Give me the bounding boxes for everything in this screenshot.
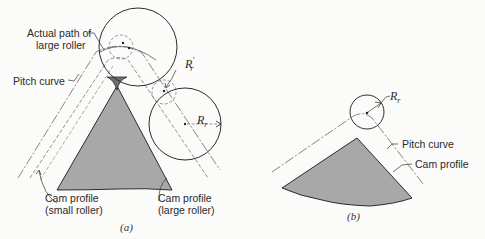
caption-b: (b) bbox=[347, 210, 360, 222]
cam-body-a bbox=[57, 86, 172, 190]
label-pitch-curve-b: Pitch curve bbox=[402, 138, 454, 150]
roller-b-center bbox=[366, 112, 369, 115]
label-cam-profile-small-line2: (small roller) bbox=[45, 204, 103, 216]
large-roller-right-center bbox=[184, 123, 186, 125]
caption-a: (a) bbox=[120, 221, 133, 233]
label-cam-profile-large-line2: (large roller) bbox=[158, 204, 215, 216]
symbol-small-roller-radius: R′r bbox=[185, 55, 193, 73]
roller-b-radius-line bbox=[368, 103, 381, 112]
label-actual-path-line1: Actual path of bbox=[27, 27, 91, 39]
label-actual-path-line2: large roller bbox=[36, 39, 86, 51]
symbol-large-roller-radius: Rr bbox=[197, 113, 207, 129]
pitch-curve-leader-a bbox=[68, 74, 79, 81]
cam-profile-leader-b bbox=[393, 164, 412, 172]
small-roller-right-center bbox=[163, 90, 165, 92]
label-cam-profile-large-line1: Cam profile bbox=[158, 192, 212, 204]
cam-profile-small-arrowhead bbox=[36, 170, 41, 175]
label-cam-profile-small-line1: Cam profile bbox=[45, 192, 99, 204]
cam-roller-diagram: Actual path of large roller Pitch curve … bbox=[0, 0, 485, 239]
figure-b-graphics bbox=[272, 95, 424, 206]
symbol-roller-radius-b: Rr bbox=[390, 89, 400, 105]
small-roller-top-center bbox=[122, 42, 124, 44]
label-pitch-curve-a: Pitch curve bbox=[13, 75, 65, 87]
label-cam-profile-b: Cam profile bbox=[415, 158, 469, 170]
large-roller-top-center bbox=[128, 47, 130, 49]
cam-body-b bbox=[282, 138, 412, 206]
roller-b-radius-leader bbox=[381, 96, 390, 103]
